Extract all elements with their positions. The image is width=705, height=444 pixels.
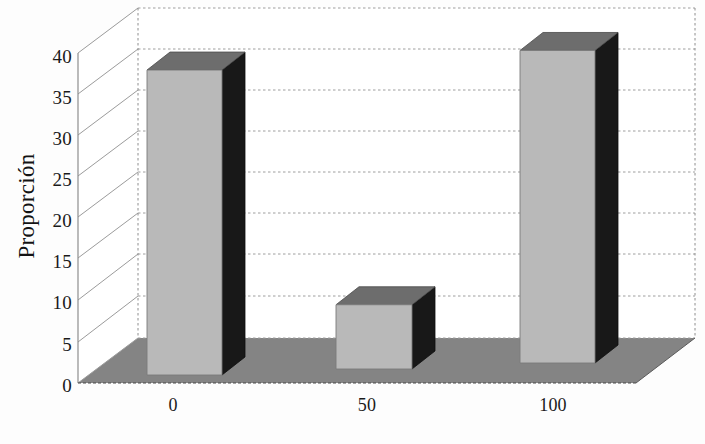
bar-chart-figure: 40 35 30 25 20 15 10 5 0 0 50 100 Propor… bbox=[0, 0, 705, 444]
y-axis-title: Proporción bbox=[14, 116, 40, 296]
x-tick-100: 100 bbox=[539, 396, 567, 414]
x-tick-50: 50 bbox=[358, 396, 376, 414]
x-tick-0: 0 bbox=[168, 396, 177, 414]
x-axis-tick-labels: 0 50 100 bbox=[0, 0, 705, 444]
